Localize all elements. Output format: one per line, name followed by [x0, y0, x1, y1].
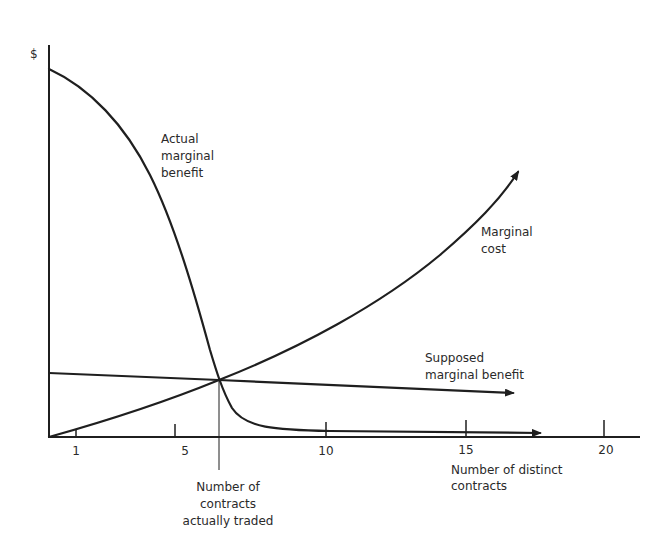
svg-text:cost: cost [481, 242, 506, 256]
svg-text:benefit: benefit [161, 166, 204, 180]
contracts-traded-label: Number of contracts actually traded [183, 480, 274, 528]
svg-text:Number of: Number of [196, 480, 260, 494]
svg-text:contracts: contracts [200, 497, 256, 511]
tick-label-15: 15 [458, 443, 473, 457]
x-axis-title-line1: Number of distinct [451, 463, 563, 477]
economics-chart: $ 1 5 10 15 20 Number of distinct contra… [0, 0, 671, 558]
y-axis-label: $ [30, 47, 38, 61]
actual-marginal-benefit-label: Actual marginal benefit [161, 132, 214, 180]
svg-text:Marginal: Marginal [481, 225, 533, 239]
marginal-cost-label: Marginal cost [481, 225, 533, 256]
x-axis-title-line2: contracts [451, 479, 507, 493]
svg-text:marginal: marginal [161, 149, 214, 163]
svg-text:Actual: Actual [161, 132, 199, 146]
svg-text:actually traded: actually traded [183, 514, 274, 528]
x-axis-ticks [76, 420, 604, 437]
supposed-marginal-benefit-label: Supposed marginal benefit [425, 351, 524, 382]
marginal-cost-curve [49, 172, 518, 437]
tick-label-20: 20 [598, 443, 613, 457]
svg-text:marginal benefit: marginal benefit [425, 368, 524, 382]
tick-label-10: 10 [318, 444, 333, 458]
x-axis-tick-labels: 1 5 10 15 20 [72, 443, 613, 458]
tick-label-5: 5 [181, 444, 189, 458]
tick-label-1: 1 [72, 444, 80, 458]
svg-text:Supposed: Supposed [425, 351, 484, 365]
